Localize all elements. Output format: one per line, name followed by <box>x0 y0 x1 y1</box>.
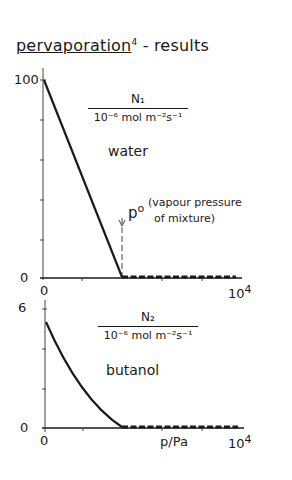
bottom-x-min-label: 0 <box>40 433 48 448</box>
p0-label: po <box>128 202 144 222</box>
water-label: water <box>108 143 148 159</box>
n2-unit: 10⁻⁶ mol m⁻²s⁻¹ <box>98 327 198 342</box>
butanol-label: butanol <box>106 362 159 378</box>
top-x-min-label: 0 <box>40 283 48 298</box>
n2-label: N₂ <box>98 310 198 327</box>
n1-label: N₁ <box>88 92 188 109</box>
vapour-pressure-note-2: of mixture) <box>154 212 215 225</box>
vapour-pressure-note-1: (vapour pressure <box>148 196 242 209</box>
n1-unit: 10⁻⁶ mol m⁻²s⁻¹ <box>88 109 188 124</box>
x-axis-label: p/Pa <box>160 434 188 449</box>
top-y-unit-fraction: N₁ 10⁻⁶ mol m⁻²s⁻¹ <box>88 92 188 124</box>
bottom-x-max-label: 104 <box>228 433 252 451</box>
top-x-max-label: 104 <box>228 283 252 301</box>
top-y-max-label: 100 <box>14 72 39 87</box>
bottom-y-max-label: 6 <box>18 300 26 315</box>
bottom-y-unit-fraction: N₂ 10⁻⁶ mol m⁻²s⁻¹ <box>98 310 198 342</box>
plot-canvas <box>0 0 292 480</box>
bottom-y-min-label: 0 <box>20 420 28 435</box>
top-y-min-label: 0 <box>20 270 28 285</box>
